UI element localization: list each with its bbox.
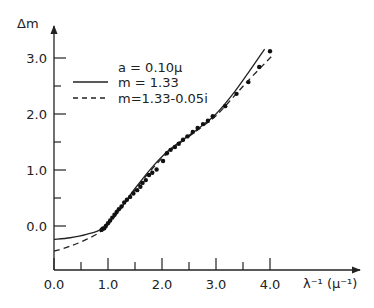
data-point — [144, 178, 148, 182]
y-axis-title: Δm — [17, 16, 39, 31]
y-tick-label: 2.0 — [26, 107, 47, 122]
y-tick-label: 1.0 — [26, 163, 47, 178]
data-point — [177, 141, 181, 145]
data-point — [135, 188, 139, 192]
data-point — [257, 65, 261, 69]
x-axis: 0.01.02.03.04.0 λ⁻¹ (μ⁻¹) — [44, 258, 360, 292]
data-point — [195, 126, 199, 130]
x-axis-title: λ⁻¹ (μ⁻¹) — [303, 276, 357, 291]
legend-entry-solid: m = 1.33 — [118, 75, 179, 90]
x-tick-label: 1.0 — [98, 277, 119, 292]
x-ticks: 0.01.02.03.04.0 — [44, 258, 281, 292]
data-point — [191, 130, 195, 134]
data-point — [185, 134, 189, 138]
data-point — [234, 92, 238, 96]
data-point — [246, 80, 250, 84]
data-point — [181, 138, 185, 142]
x-tick-label: 0.0 — [44, 277, 65, 292]
data-point — [131, 191, 135, 195]
data-point — [154, 167, 158, 171]
data-point — [138, 185, 142, 189]
chart: 0.01.02.03.0 Δm 0.01.02.03.04.0 λ⁻¹ (μ⁻¹… — [0, 0, 374, 308]
legend-header: a = 0.10μ — [118, 60, 182, 75]
data-point — [201, 122, 205, 126]
data-point — [150, 171, 154, 175]
x-tick-label: 3.0 — [206, 277, 227, 292]
x-tick-label: 2.0 — [152, 277, 173, 292]
data-point — [161, 159, 165, 163]
data-point — [128, 195, 132, 199]
data-point — [211, 114, 215, 118]
y-tick-label: 3.0 — [26, 51, 47, 66]
data-point — [173, 145, 177, 149]
y-ticks: 0.01.02.03.0 — [26, 51, 66, 234]
y-tick-label: 0.0 — [26, 219, 47, 234]
data-point — [268, 49, 272, 53]
data-point — [165, 151, 169, 155]
legend-entry-dashed: m=1.33-0.05i — [118, 91, 208, 106]
data-point — [206, 119, 210, 123]
data-point — [168, 148, 172, 152]
legend: a = 0.10μ m = 1.33 m=1.33-0.05i — [73, 60, 208, 106]
data-point — [119, 204, 123, 208]
data-point — [223, 104, 227, 108]
x-tick-label: 4.0 — [260, 277, 281, 292]
y-axis: 0.01.02.03.0 Δm — [17, 16, 66, 270]
